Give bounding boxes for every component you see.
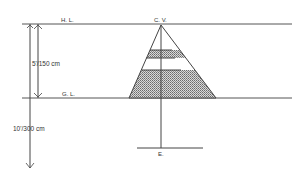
viewing-distance-label: 10'/300 cm [13, 125, 45, 132]
center-of-vision-label: C. V. [154, 17, 167, 23]
pyramid-shape [120, 50, 230, 98]
perspective-diagram: H. L. C. V. G. L. E. 5'/150 cm 10'/300 c… [0, 0, 296, 186]
eye-point-label: E. [158, 151, 164, 157]
horizon-line-label: H. L. [61, 17, 74, 23]
eye-height-label: 5'/150 cm [32, 60, 60, 67]
ground-line-label: G. L. [62, 91, 75, 97]
